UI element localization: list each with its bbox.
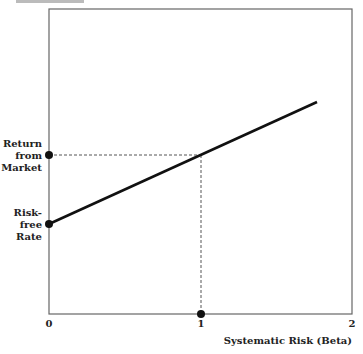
header-fragment (16, 0, 84, 3)
risk-free-point (45, 220, 53, 228)
label-rf-2: free (20, 219, 42, 230)
x-tick-2: 2 (349, 318, 356, 329)
label-return-2: from (15, 150, 42, 161)
market-return-point (45, 151, 53, 159)
x-tick-1: 1 (198, 318, 205, 329)
label-rf-1: Risk- (14, 207, 42, 218)
beta-one-point (197, 310, 205, 318)
label-return-1: Return (3, 138, 43, 149)
sml-diagram: Return from Market Risk- free Rate 0 1 2… (0, 0, 363, 354)
label-rf-3: Rate (16, 231, 42, 242)
x-axis-label: Systematic Risk (Beta) (224, 335, 352, 346)
security-market-line (49, 102, 317, 224)
label-return-3: Market (1, 162, 42, 173)
x-tick-0: 0 (46, 318, 53, 329)
